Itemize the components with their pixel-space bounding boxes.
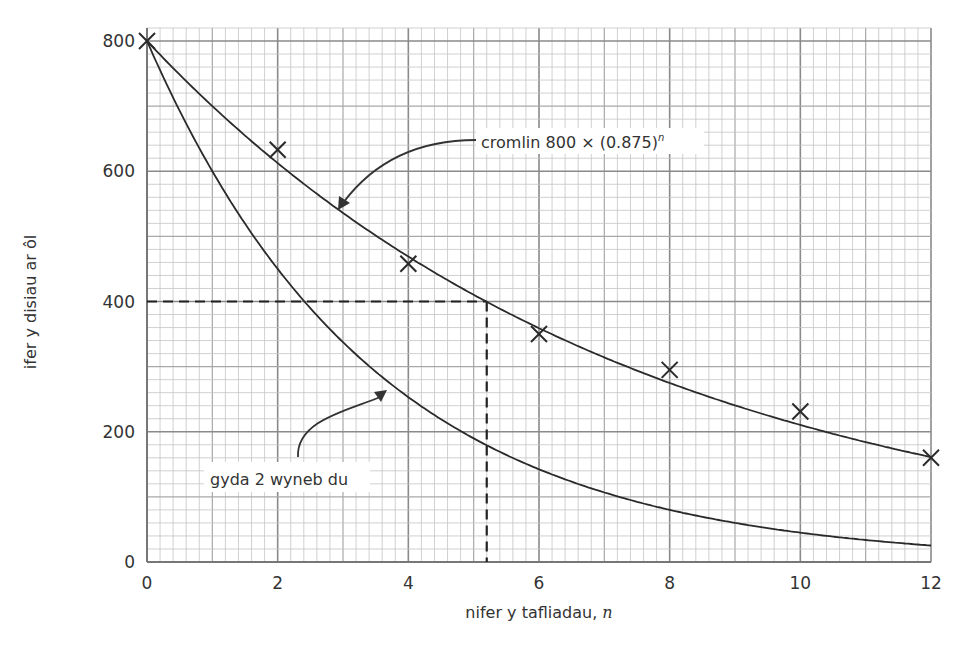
x-axis-title: nifer y tafliadau, n <box>465 603 612 622</box>
y-tick-label: 400 <box>103 292 135 312</box>
y-axis-ticks: 0200400600800 <box>103 31 135 572</box>
annotation-lower-label: gyda 2 wyneb du <box>210 470 348 489</box>
annotation-lower-curve: gyda 2 wyneb du <box>204 390 387 492</box>
x-tick-label: 8 <box>664 573 675 593</box>
x-tick-label: 2 <box>272 573 283 593</box>
annotation-upper-label: cromlin 800 × (0.875)n <box>481 132 664 152</box>
x-tick-label: 10 <box>790 573 812 593</box>
x-tick-label: 12 <box>920 573 942 593</box>
y-tick-label: 800 <box>103 31 135 51</box>
arrowhead-icon <box>374 390 387 402</box>
x-axis-ticks: 024681012 <box>142 573 942 593</box>
y-tick-label: 0 <box>124 552 135 572</box>
arrowhead-icon <box>338 196 350 210</box>
exponential-decay-chart: 0200400600800 024681012 ifer y disiau ar… <box>0 0 968 654</box>
y-tick-label: 200 <box>103 422 135 442</box>
x-tick-label: 4 <box>403 573 414 593</box>
y-axis-title: ifer y disiau ar ôl <box>21 235 40 369</box>
x-tick-label: 0 <box>142 573 153 593</box>
x-tick-label: 6 <box>534 573 545 593</box>
y-tick-label: 600 <box>103 161 135 181</box>
